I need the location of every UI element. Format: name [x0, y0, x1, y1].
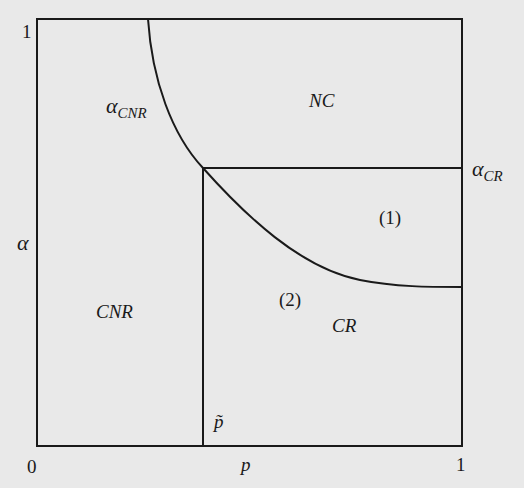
region-cr-label: CR	[332, 316, 356, 335]
y-tick-1: 1	[22, 22, 32, 41]
alpha-cr-subscript: CR	[484, 168, 503, 184]
x-axis-label: p	[241, 455, 251, 474]
alpha-cnr-curve	[148, 19, 462, 287]
alpha-cr-symbol: α	[472, 156, 484, 181]
alpha-cnr-label: αCNR	[106, 95, 147, 117]
alpha-cr-label: αCR	[472, 158, 503, 180]
x-tick-0: 0	[27, 457, 37, 476]
region-diagram	[0, 0, 524, 488]
subregion-2-label: (2)	[279, 290, 301, 309]
region-nc-label: NC	[309, 91, 334, 110]
p-tilde-label: p̃	[214, 412, 224, 431]
plot-frame	[37, 19, 462, 446]
alpha-cnr-symbol: α	[106, 93, 118, 118]
x-tick-1: 1	[456, 455, 466, 474]
region-cnr-label: CNR	[96, 302, 133, 321]
subregion-1-label: (1)	[379, 208, 401, 227]
y-axis-label: α	[17, 232, 29, 254]
alpha-cnr-subscript: CNR	[118, 105, 147, 121]
